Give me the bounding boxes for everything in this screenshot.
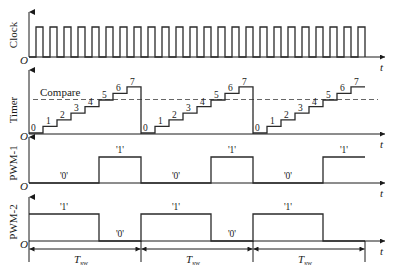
pwm1-origin-label: O — [20, 180, 28, 192]
logic-level-label: '0' — [116, 229, 124, 239]
pwm1-level-labels: '0''1''0''1''0''1' — [60, 145, 348, 181]
pwm1-t-label: t — [380, 187, 384, 199]
timer-t-label: t — [380, 138, 384, 150]
timer-step-value: 7 — [242, 77, 247, 87]
clock-t-label: t — [380, 61, 384, 73]
clock-panel: Clock O t — [7, 12, 385, 73]
timer-step-value: 1 — [158, 116, 163, 126]
period-label: Tsw — [298, 253, 313, 267]
logic-level-label: '0' — [172, 171, 180, 181]
timer-origin-label: O — [20, 130, 28, 142]
clock-waveform — [29, 27, 365, 57]
clock-axis-label: Clock — [7, 21, 19, 48]
timer-step-value: 4 — [312, 97, 317, 107]
timer-step-value: 2 — [60, 110, 65, 120]
timer-step-value: 2 — [172, 110, 177, 120]
timer-step-value: 0 — [255, 123, 260, 133]
timer-step-value: 3 — [186, 103, 191, 113]
timer-step-value: 0 — [143, 123, 148, 133]
logic-level-label: '0' — [60, 171, 68, 181]
logic-level-label: '1' — [340, 145, 348, 155]
timer-step-value: 6 — [228, 83, 233, 93]
pwm2-origin-label: O — [20, 238, 28, 250]
timer-step-value: 6 — [116, 83, 121, 93]
period-label: Tsw — [186, 253, 201, 267]
timer-step-value: 5 — [214, 90, 219, 100]
logic-level-label: '1' — [284, 202, 292, 212]
switching-period-dimensions: TswTswTsw — [29, 241, 365, 267]
timer-step-value: 3 — [74, 103, 79, 113]
timer-step-value: 0 — [31, 123, 36, 133]
pwm2-level-labels: '1''0''1''0''1' — [60, 202, 292, 239]
timer-panel: Timer O t Compare 0123456701234567012345… — [7, 70, 385, 150]
pwm1-waveform — [29, 157, 365, 183]
compare-label: Compare — [40, 86, 80, 98]
logic-level-label: '0' — [284, 171, 292, 181]
logic-level-label: '0' — [228, 229, 236, 239]
logic-level-label: '1' — [228, 145, 236, 155]
logic-level-label: '1' — [60, 202, 68, 212]
pwm2-t-label: t — [380, 245, 384, 257]
timer-axis-label: Timer — [7, 96, 19, 123]
pwm2-waveform — [29, 214, 365, 241]
pwm2-axis-label: PWM-2 — [7, 204, 19, 239]
timer-step-value: 6 — [340, 83, 345, 93]
timer-step-value: 5 — [326, 90, 331, 100]
timer-step-value: 7 — [354, 77, 359, 87]
timer-step-value: 3 — [298, 103, 303, 113]
timer-step-value: 7 — [130, 77, 135, 87]
timer-step-value: 4 — [88, 97, 93, 107]
clock-origin-label: O — [20, 54, 28, 66]
pwm1-axis-label: PWM-1 — [7, 145, 19, 180]
timer-step-value: 1 — [270, 116, 275, 126]
pwm-timing-diagram: Clock O t Timer O t Compare 012345670123… — [0, 0, 398, 276]
timer-step-value: 2 — [284, 110, 289, 120]
timer-step-value: 4 — [200, 97, 205, 107]
logic-level-label: '1' — [116, 145, 124, 155]
logic-level-label: '1' — [172, 202, 180, 212]
timer-step-value: 1 — [46, 116, 51, 126]
pwm1-panel: PWM-1 O t '0''1''0''1''0''1' — [7, 137, 385, 199]
pwm2-panel: PWM-2 O t '1''0''1''0''1' — [7, 197, 385, 257]
timer-step-value: 5 — [102, 90, 107, 100]
period-label: Tsw — [74, 253, 89, 267]
